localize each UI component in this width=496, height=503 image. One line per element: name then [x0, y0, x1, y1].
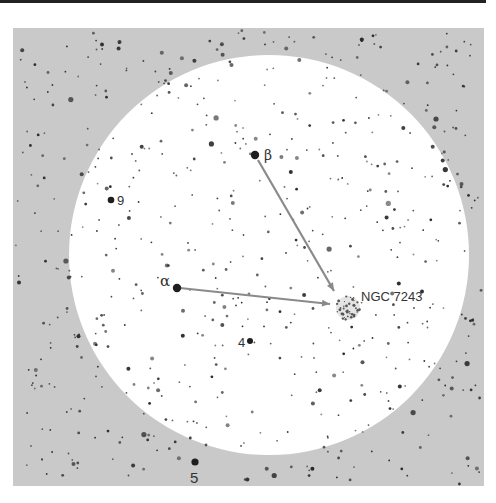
- label-star-4: 4: [238, 335, 245, 350]
- star-4: [247, 338, 253, 344]
- label-star-9: 9: [117, 193, 124, 208]
- star-alpha: [173, 284, 181, 292]
- star-beta: [251, 151, 259, 159]
- label-beta: β: [264, 147, 272, 163]
- label-alpha: α: [160, 272, 170, 290]
- finder-field-circle: [69, 55, 469, 455]
- star-9: [108, 197, 115, 204]
- star-chart: β α NGC 7243 9 4 5: [0, 0, 496, 503]
- label-ngc-7243: NGC 7243: [361, 289, 422, 304]
- star-5: [191, 458, 198, 465]
- label-star-5: 5: [190, 469, 198, 486]
